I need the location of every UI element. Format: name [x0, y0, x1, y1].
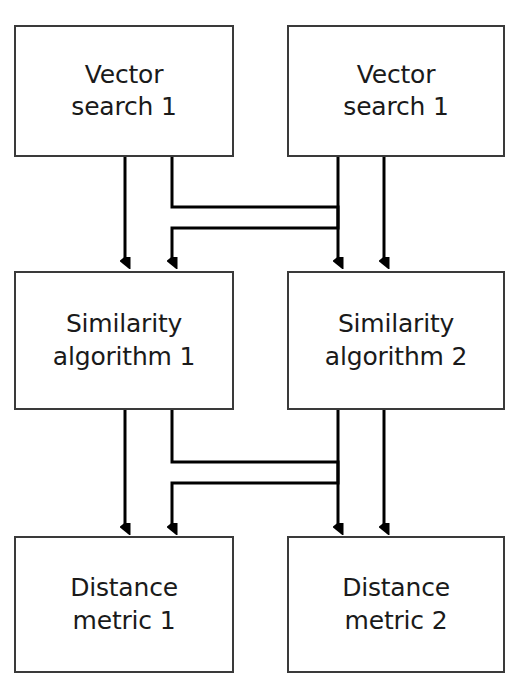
node-label: Similarity algorithm 1	[47, 308, 201, 373]
node-label: Distance metric 1	[64, 572, 184, 637]
connector-vs1-to-sa2	[172, 157, 338, 258]
node-similarity-algorithm-2[interactable]: Similarity algorithm 2	[287, 271, 505, 410]
connector-sa1-to-dm2	[172, 410, 338, 524]
node-distance-metric-2[interactable]: Distance metric 2	[287, 536, 505, 673]
node-similarity-algorithm-1[interactable]: Similarity algorithm 1	[14, 271, 234, 410]
flowchart-diagram: Vector search 1 Vector search 1 Similari…	[0, 0, 519, 685]
node-label: Vector search 1	[337, 59, 454, 124]
node-distance-metric-1[interactable]: Distance metric 1	[14, 536, 234, 673]
node-label: Similarity algorithm 2	[319, 308, 473, 373]
node-label: Distance metric 2	[336, 572, 456, 637]
connector-sa2-to-dm1	[172, 410, 338, 524]
node-vector-search-right[interactable]: Vector search 1	[287, 25, 505, 157]
node-vector-search-left[interactable]: Vector search 1	[14, 25, 234, 157]
node-label: Vector search 1	[65, 59, 182, 124]
